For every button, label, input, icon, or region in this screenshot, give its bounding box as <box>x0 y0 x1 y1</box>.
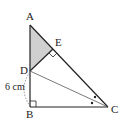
label-A: A <box>26 10 34 22</box>
angle-mark-dot-upper <box>94 96 96 98</box>
measurement-label: 6 cm <box>5 81 25 92</box>
triangle-diagram: A E D B C 6 cm <box>0 0 129 124</box>
right-angle-mark-E <box>49 53 57 57</box>
segment-DC <box>30 71 108 107</box>
measurement-arc-DB <box>24 72 30 106</box>
right-angle-mark-B <box>30 101 36 107</box>
label-E: E <box>55 36 62 48</box>
label-C: C <box>111 103 118 115</box>
angle-mark-dot-lower <box>91 102 93 104</box>
label-B: B <box>26 108 33 120</box>
side-AC <box>30 25 108 107</box>
label-D: D <box>20 64 28 76</box>
shaded-triangle-ADE <box>30 25 53 71</box>
